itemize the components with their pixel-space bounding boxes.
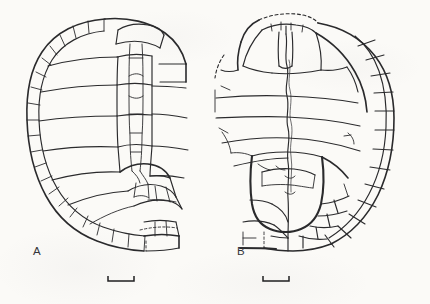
panel-label-a: A bbox=[33, 245, 41, 257]
plastron-anterior-lobe bbox=[243, 22, 347, 74]
figure-plate: A B bbox=[0, 0, 430, 304]
panel-label-b: B bbox=[237, 245, 245, 257]
panel-b-plastron-drawing bbox=[0, 0, 430, 304]
plastron-posterior-lobe bbox=[251, 152, 349, 232]
plastron-midline-seam bbox=[286, 34, 292, 238]
scale-bar-b bbox=[263, 276, 289, 281]
